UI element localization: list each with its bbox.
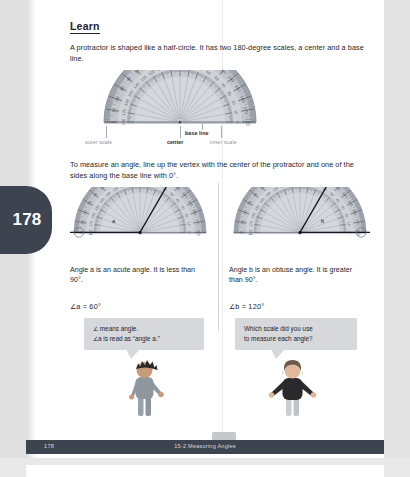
callout-left-line1: ∠ means angle.: [93, 324, 196, 334]
callout-right-line1: Which scale did you use: [244, 324, 349, 334]
page-gutter-right: [384, 0, 410, 458]
svg-text:180: 180: [121, 118, 126, 125]
label-base-line: base line: [185, 130, 209, 136]
page-tab-number: 178: [9, 210, 42, 230]
character-boy-illustration: [118, 356, 172, 422]
callout-which-scale-question: Which scale did you use to measure each …: [235, 318, 357, 350]
next-page-edge: [26, 465, 384, 477]
explanation-columns: Angle a is an acute angle. It is less th…: [70, 265, 370, 311]
callout-right-line2: to measure each angle?: [244, 334, 349, 344]
leader-inner-scale: [221, 126, 222, 138]
angle-b-equation: ∠b = 120°: [229, 302, 361, 311]
svg-text:180: 180: [196, 229, 201, 236]
protractor-b-diagram: 0102030405060708090100110120130140150160…: [230, 187, 370, 249]
protractor-angle-a: 0102030405060708090100110120130140150160…: [70, 187, 210, 253]
svg-text:10: 10: [346, 222, 351, 227]
label-outer-scale: outer scale: [85, 139, 112, 145]
intro-paragraph: A protractor is shaped like a half-circl…: [70, 43, 370, 64]
protractor-a-diagram: 0102030405060708090100110120130140150160…: [70, 187, 210, 249]
textbook-page: Learn A protractor is shaped like a half…: [26, 0, 384, 458]
leader-center: [180, 126, 181, 138]
explanation-column-left: Angle a is an acute angle. It is less th…: [70, 265, 202, 311]
character-girl-svg: [266, 356, 320, 418]
leader-outer-scale: [106, 126, 107, 138]
explanation-column-right: Angle b is an obtuse angle. It is greate…: [229, 265, 361, 311]
angle-a-equation: ∠a = 60°: [70, 302, 202, 311]
protractor-diagram: 0102030405060708090100110120130140150160…: [100, 70, 260, 130]
label-inner-scale: inner scale: [210, 139, 237, 145]
svg-text:b: b: [321, 218, 324, 224]
protractor-angle-b: 0102030405060708090100110120130140150160…: [230, 187, 370, 253]
page-footer: 178 15-2 Measuring Angles: [26, 440, 384, 454]
instruction-paragraph: To measure an angle, line up the vertex …: [70, 160, 370, 181]
label-center: center: [167, 139, 184, 145]
figure-measured-protractors: 0102030405060708090100110120130140150160…: [70, 187, 370, 259]
callout-row: ∠ means angle. ∠a is read as “angle a.” …: [70, 318, 370, 423]
figure-labelled-protractor: 0102030405060708090100110120130140150160…: [70, 70, 370, 150]
svg-text:10: 10: [186, 222, 191, 227]
acute-angle-description: Angle a is an acute angle. It is less th…: [70, 265, 202, 285]
leader-base-line: [202, 122, 203, 130]
obtuse-angle-description: Angle b is an obtuse angle. It is greate…: [229, 265, 361, 285]
page-content: Learn A protractor is shaped like a half…: [70, 16, 370, 423]
callout-left-line2: ∠a is read as “angle a.”: [93, 334, 196, 344]
section-heading-learn: Learn: [70, 20, 100, 34]
character-boy-svg: [118, 356, 172, 418]
screenshot-viewport: Learn A protractor is shaped like a half…: [0, 0, 410, 477]
callout-angle-notation: ∠ means angle. ∠a is read as “angle a.”: [84, 318, 204, 350]
footer-lesson-title: 15-2 Measuring Angles: [26, 443, 384, 449]
character-girl-illustration: [266, 356, 320, 422]
page-number-tab: 178: [0, 186, 52, 254]
